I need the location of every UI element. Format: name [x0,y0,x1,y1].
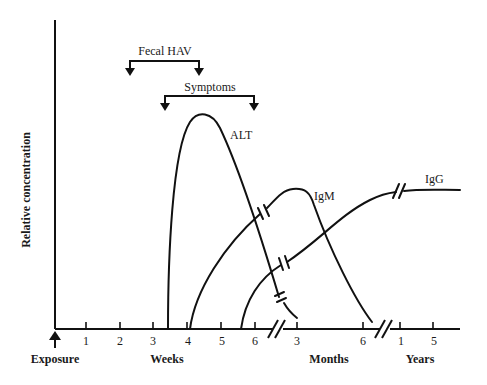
tick-label: 2 [117,334,123,348]
weeks-label: Weeks [150,352,184,366]
igg-label: IgG [425,172,444,186]
igm-label: IgM [314,189,335,203]
tick-label: 1 [398,334,404,348]
tick-label: 5 [431,334,437,348]
tick-label: 4 [185,334,191,348]
tick-label: 6 [252,334,258,348]
tick-label: 3 [150,334,156,348]
tick-label: 1 [83,334,89,348]
tick-label: 6 [360,334,366,348]
igm-curve: IgM [190,189,372,329]
hav-serology-chart: 1 2 3 4 5 6 3 6 1 5 Exposure Weeks Month… [0,0,487,385]
alt-label: ALT [230,128,253,142]
exposure-label: Exposure [31,352,80,366]
fecal-hav-label: Fecal HAV [138,44,192,58]
tick-label: 5 [219,334,225,348]
exposure-arrow-icon [49,331,61,348]
tick-label: 3 [294,334,300,348]
years-label: Years [406,352,435,366]
igg-curve: IgG [241,172,460,329]
months-label: Months [309,352,349,366]
symptoms-bracket: Symptoms [160,80,259,111]
alt-curve: ALT [168,114,297,329]
y-axis-label: Relative concentration [19,132,33,248]
symptoms-label: Symptoms [184,80,236,94]
fecal-hav-bracket: Fecal HAV [125,44,204,76]
